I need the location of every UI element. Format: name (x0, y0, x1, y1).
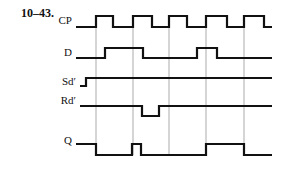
waveform-d (76, 48, 272, 58)
waveform-rd (80, 106, 272, 116)
waveform-sd (80, 78, 272, 86)
waveform-cp (76, 16, 272, 27)
timing-diagram (0, 0, 289, 169)
waveform-q (76, 144, 272, 155)
